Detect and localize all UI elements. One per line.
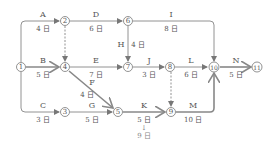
activity-A-name: A — [39, 10, 46, 19]
activity-C: C 3 日 — [21, 72, 59, 124]
activity-E-name: E — [93, 56, 99, 65]
activity-E: E 7 日 — [70, 56, 122, 79]
node-9: 9 — [167, 108, 176, 117]
svg-text:11: 11 — [253, 64, 261, 71]
activity-B: B 5 日 — [26, 56, 59, 79]
svg-text:8: 8 — [168, 63, 172, 71]
activity-L: L 6 日 — [175, 56, 207, 79]
activity-I-name: I — [169, 10, 172, 19]
svg-text:2: 2 — [63, 17, 67, 25]
node-6: 6 — [124, 17, 133, 26]
activity-G: G 5 日 — [70, 101, 112, 124]
activity-M-duration: 10 日 — [184, 116, 202, 124]
activity-N-duration: 5 日 — [229, 71, 243, 79]
activity-M: M 10 日 — [176, 73, 214, 124]
activity-C-name: C — [40, 101, 46, 110]
activity-N-name: N — [233, 56, 240, 65]
node-10: 10 — [209, 62, 219, 72]
activity-J: J 3 日 — [133, 56, 164, 79]
svg-text:5: 5 — [116, 108, 120, 116]
node-3: 3 — [61, 108, 70, 117]
activity-C-duration: 3 日 — [36, 116, 50, 124]
activity-D-duration: 6 日 — [89, 25, 103, 33]
activity-A-duration: 4 日 — [36, 25, 50, 33]
activity-G-duration: 5 日 — [85, 116, 99, 124]
svg-text:6: 6 — [126, 17, 131, 25]
activity-K-name: K — [141, 101, 148, 110]
svg-text:1: 1 — [19, 63, 23, 71]
activity-K: K 5 日 ↓ 9 日 — [123, 101, 165, 140]
activity-M-name: M — [189, 101, 197, 110]
node-5: 5 — [114, 108, 123, 117]
activity-J-duration: 3 日 — [142, 71, 156, 79]
activity-B-duration: 5 日 — [36, 71, 50, 79]
node-2: 2 — [61, 17, 70, 26]
network-diagram: A 4 日 C 3 日 B 5 日 D 6 日 E 7 日 F 4 日 G 5 … — [0, 0, 275, 143]
svg-text:3: 3 — [63, 108, 67, 116]
activity-H-duration: 4 日 — [131, 41, 145, 49]
node-11: 11 — [252, 62, 262, 72]
activity-G-name: G — [89, 101, 95, 110]
activity-J-name: J — [146, 56, 150, 65]
activity-L-name: L — [188, 56, 194, 65]
node-8: 8 — [166, 63, 175, 72]
activity-F-duration: 4 日 — [80, 91, 94, 99]
activity-N: N 5 日 — [220, 56, 251, 79]
activity-H: H 4 日 — [118, 26, 145, 61]
node-4: 4 — [61, 63, 70, 72]
node-7: 7 — [124, 63, 133, 72]
svg-text:9: 9 — [169, 108, 173, 116]
svg-text:10: 10 — [210, 64, 218, 71]
svg-text:4: 4 — [63, 63, 68, 71]
activity-K-duration: 5 日 — [137, 116, 151, 124]
activity-I: I 8 日 — [133, 10, 214, 61]
activity-H-name: H — [118, 40, 125, 49]
activity-A: A 4 日 — [21, 10, 59, 62]
activity-D-name: D — [93, 10, 99, 19]
activity-D: D 6 日 — [70, 10, 122, 33]
activity-B-name: B — [40, 56, 46, 65]
activity-I-duration: 8 日 — [164, 25, 178, 33]
annotation-arrow-icon: ↓ — [141, 124, 147, 132]
activity-F-name: F — [89, 78, 95, 87]
node-1: 1 — [17, 63, 26, 72]
annotation-text: 9 日 — [137, 132, 151, 140]
svg-text:7: 7 — [126, 63, 130, 71]
activity-L-duration: 6 日 — [184, 71, 198, 79]
